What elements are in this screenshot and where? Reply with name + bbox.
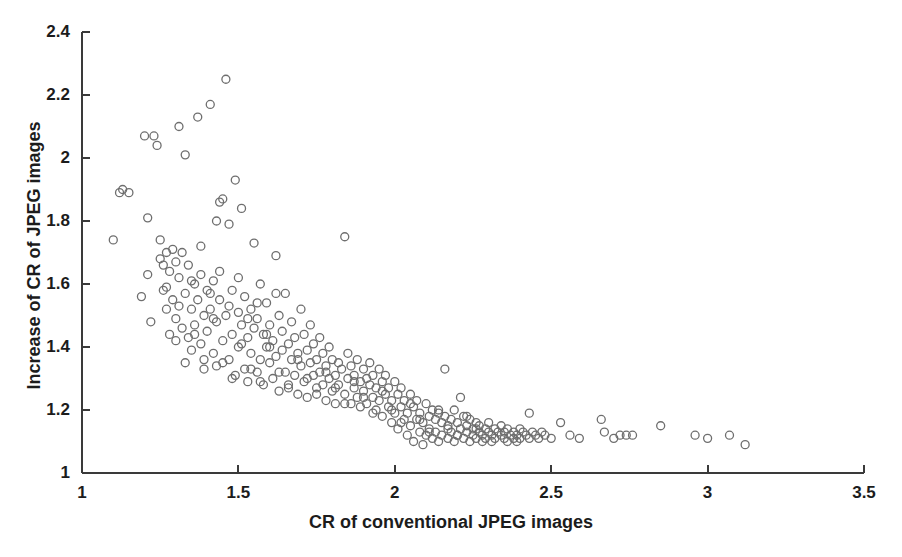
scatter-marker: [175, 123, 183, 131]
scatter-marker: [275, 387, 283, 395]
scatter-marker: [225, 302, 233, 310]
scatter-marker: [338, 365, 346, 373]
scatter-marker: [209, 277, 217, 285]
scatter-marker: [378, 412, 386, 420]
scatter-marker: [253, 315, 261, 323]
scatter-marker: [456, 393, 464, 401]
scatter-marker: [366, 359, 374, 367]
scatter-marker: [144, 214, 152, 222]
scatter-marker: [222, 312, 230, 320]
scatter-marker: [441, 365, 449, 373]
y-tick-label: 2.4: [0, 22, 70, 42]
scatter-marker: [291, 371, 299, 379]
scatter-marker: [397, 384, 405, 392]
scatter-marker: [200, 312, 208, 320]
scatter-marker: [172, 337, 180, 345]
scatter-marker: [178, 324, 186, 332]
scatter-marker: [241, 293, 249, 301]
scatter-marker: [256, 280, 264, 288]
scatter-marker: [250, 239, 258, 247]
scatter-marker: [181, 359, 189, 367]
x-axis-title: CR of conventional JPEG images: [0, 512, 902, 533]
axes: [82, 32, 864, 473]
scatter-marker: [125, 189, 133, 197]
scatter-marker: [228, 286, 236, 294]
scatter-marker: [206, 100, 214, 108]
scatter-marker: [600, 428, 608, 436]
scatter-marker: [253, 299, 261, 307]
scatter-marker: [403, 409, 411, 417]
scatter-marker: [137, 293, 145, 301]
scatter-marker: [153, 141, 161, 149]
scatter-marker: [657, 422, 665, 430]
scatter-marker: [704, 434, 712, 442]
scatter-marker: [344, 349, 352, 357]
scatter-marker: [275, 312, 283, 320]
scatter-marker: [353, 356, 361, 364]
scatter-marker: [325, 343, 333, 351]
scatter-marker: [181, 289, 189, 297]
y-tick-label: 1: [0, 463, 70, 483]
scatter-marker: [244, 334, 252, 342]
scatter-marker: [322, 397, 330, 405]
scatter-marker: [194, 113, 202, 121]
scatter-marker: [162, 305, 170, 313]
scatter-marker: [166, 330, 174, 338]
scatter-marker: [272, 352, 280, 360]
scatter-marker: [525, 409, 533, 417]
scatter-marker: [360, 365, 368, 373]
scatter-marker: [272, 289, 280, 297]
x-tick-label: 1.5: [227, 483, 251, 503]
data-points: [109, 75, 749, 448]
scatter-marker: [209, 349, 217, 357]
scatter-marker: [141, 132, 149, 140]
plot-canvas: [0, 0, 902, 557]
scatter-chart-figure: 11.522.533.5 11.21.41.61.822.22.4 CR of …: [0, 0, 902, 557]
scatter-marker: [166, 267, 174, 275]
scatter-marker: [381, 371, 389, 379]
scatter-marker: [231, 176, 239, 184]
scatter-marker: [347, 362, 355, 370]
scatter-marker: [419, 441, 427, 449]
scatter-marker: [341, 233, 349, 241]
scatter-marker: [194, 296, 202, 304]
scatter-marker: [278, 327, 286, 335]
scatter-marker: [369, 371, 377, 379]
scatter-marker: [284, 340, 292, 348]
scatter-marker: [187, 305, 195, 313]
scatter-marker: [422, 400, 430, 408]
scatter-marker: [278, 346, 286, 354]
scatter-marker: [726, 431, 734, 439]
scatter-marker: [597, 415, 605, 423]
scatter-marker: [406, 422, 414, 430]
scatter-marker: [234, 308, 242, 316]
scatter-marker: [187, 346, 195, 354]
scatter-marker: [250, 324, 258, 332]
x-tick-label: 1: [77, 483, 86, 503]
scatter-marker: [175, 274, 183, 282]
scatter-marker: [341, 390, 349, 398]
scatter-marker: [244, 315, 252, 323]
scatter-marker: [291, 334, 299, 342]
x-tick-label: 2: [390, 483, 399, 503]
scatter-marker: [263, 299, 271, 307]
scatter-marker: [691, 431, 699, 439]
scatter-marker: [200, 365, 208, 373]
scatter-marker: [228, 330, 236, 338]
scatter-marker: [147, 318, 155, 326]
scatter-marker: [150, 132, 158, 140]
scatter-marker: [266, 321, 274, 329]
scatter-marker: [178, 249, 186, 257]
scatter-marker: [557, 419, 565, 427]
scatter-marker: [219, 337, 227, 345]
scatter-marker: [247, 349, 255, 357]
scatter-marker: [197, 242, 205, 250]
scatter-marker: [303, 346, 311, 354]
scatter-marker: [159, 261, 167, 269]
scatter-marker: [294, 390, 302, 398]
scatter-marker: [234, 274, 242, 282]
scatter-marker: [156, 236, 164, 244]
scatter-marker: [222, 75, 230, 83]
scatter-marker: [203, 327, 211, 335]
scatter-marker: [216, 267, 224, 275]
